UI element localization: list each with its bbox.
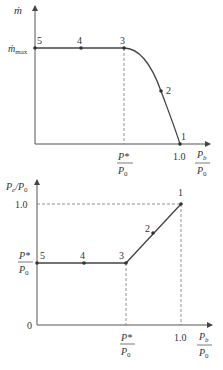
point-label-5: 5 xyxy=(40,250,45,261)
y-tick-pstar-den: P0 xyxy=(18,264,29,277)
x-tick-one: 1.0 xyxy=(173,151,186,162)
y-axis-label: Pe/P0 xyxy=(5,181,28,194)
point-3 xyxy=(122,46,126,50)
y-tick-one: 1.0 xyxy=(15,199,28,210)
x-tick-pstar-num: P* xyxy=(117,151,129,162)
y-tick-zero: 0 xyxy=(27,320,32,331)
point-3 xyxy=(124,261,128,265)
point-label-1: 1 xyxy=(178,187,183,198)
point-1 xyxy=(179,202,183,206)
x-tick-pstar-den: P0 xyxy=(120,346,131,359)
point-label-2: 2 xyxy=(145,223,150,234)
x-tick-pstar-num: P* xyxy=(120,332,132,343)
x-axis-label-den: P0 xyxy=(196,165,207,178)
point-4 xyxy=(79,46,83,50)
point-label-3: 3 xyxy=(120,35,125,46)
point-1 xyxy=(178,142,182,146)
point-label-1: 1 xyxy=(181,131,186,142)
charts-canvas: ṁ ṁmax 5 4 3 2 1 P* P0 1.0 Pb P0 Pe/P0 1… xyxy=(0,0,223,370)
flow-curve xyxy=(35,48,180,144)
y-axis-label: ṁ xyxy=(14,4,22,16)
y-tick-mmax: ṁmax xyxy=(8,43,28,56)
mass-flow-chart: ṁ ṁmax 5 4 3 2 1 P* P0 1.0 Pb P0 xyxy=(8,4,210,178)
x-axis-label-den: P0 xyxy=(198,347,209,360)
pressure-curve xyxy=(37,204,181,263)
point-label-3: 3 xyxy=(119,250,124,261)
point-label-2: 2 xyxy=(166,85,171,96)
point-2 xyxy=(151,231,155,235)
x-tick-pstar-den: P0 xyxy=(117,165,128,178)
point-label-5: 5 xyxy=(37,35,42,46)
point-5 xyxy=(35,261,39,265)
point-2 xyxy=(159,89,163,93)
x-axis-label-num: Pb xyxy=(196,149,207,162)
point-label-4: 4 xyxy=(77,35,82,46)
x-axis-label-num: Pb xyxy=(198,331,209,344)
y-tick-pstar-num: P* xyxy=(18,250,30,261)
exit-pressure-chart: Pe/P0 1.0 0 P* P0 5 4 3 2 1 P* P0 1.0 Pb… xyxy=(5,180,212,360)
point-4 xyxy=(82,261,86,265)
point-label-4: 4 xyxy=(80,250,85,261)
point-5 xyxy=(33,46,37,50)
x-tick-one: 1.0 xyxy=(174,332,187,343)
